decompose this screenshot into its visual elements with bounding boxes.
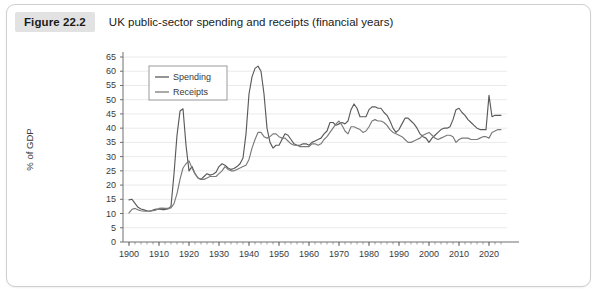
- x-tick-label: 1980: [359, 249, 379, 259]
- legend-label-receipts: Receipts: [173, 87, 209, 97]
- y-tick-label: 30: [106, 152, 116, 162]
- x-tick-label: 1960: [299, 249, 319, 259]
- figure-header: Figure 22.2 UK public-sector spending an…: [7, 11, 393, 33]
- y-tick-label: 15: [106, 194, 116, 204]
- x-tick-label: 2000: [419, 249, 439, 259]
- y-tick-label: 45: [106, 109, 116, 119]
- x-tick-group: 1900191019201930194019501960197019801990…: [119, 242, 501, 259]
- figure-number-badge: Figure 22.2: [15, 12, 95, 32]
- y-tick-label: 55: [106, 80, 116, 90]
- x-tick-label: 2010: [449, 249, 469, 259]
- y-tick-label: 65: [106, 52, 116, 62]
- y-tick-label: 5: [111, 223, 116, 233]
- figure-card: Figure 22.2 UK public-sector spending an…: [6, 4, 591, 287]
- x-tick-label: 2020: [479, 249, 499, 259]
- figure-title: UK public-sector spending and receipts (…: [109, 16, 393, 28]
- y-tick-label: 25: [106, 166, 116, 176]
- y-tick-label: 35: [106, 137, 116, 147]
- chart-legend: SpendingReceipts: [149, 66, 227, 100]
- chart-plot: 05101520253035404550556065 1900191019201…: [7, 37, 592, 286]
- x-tick-label: 1910: [149, 249, 169, 259]
- y-tick-label: 60: [106, 66, 116, 76]
- x-tick-label: 1970: [329, 249, 349, 259]
- y-axis-title: % of GDP: [24, 128, 35, 170]
- x-tick-label: 1950: [269, 249, 289, 259]
- y-tick-label: 0: [111, 237, 116, 247]
- y-tick-group: 05101520253035404550556065: [106, 52, 123, 247]
- x-tick-label: 1930: [209, 249, 229, 259]
- x-tick-label: 1920: [179, 249, 199, 259]
- x-tick-label: 1900: [119, 249, 139, 259]
- x-tick-label: 1940: [239, 249, 259, 259]
- y-tick-label: 10: [106, 209, 116, 219]
- y-tick-label: 50: [106, 95, 116, 105]
- x-tick-label: 1990: [389, 249, 409, 259]
- line-chart-svg: 05101520253035404550556065 1900191019201…: [7, 37, 592, 286]
- y-tick-label: 20: [106, 180, 116, 190]
- legend-label-spending: Spending: [173, 72, 211, 82]
- y-tick-label: 40: [106, 123, 116, 133]
